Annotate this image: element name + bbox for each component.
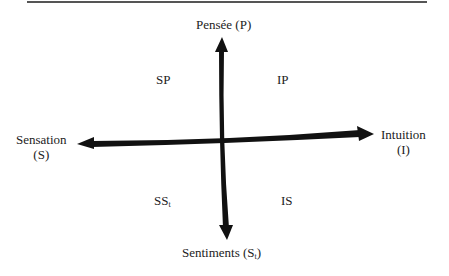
- arrow-down-head: [219, 225, 233, 240]
- axis-label-right: Intuition (I): [381, 127, 426, 157]
- quadrant-label-sst-main: SS: [154, 193, 168, 208]
- axis-label-bottom-end: ): [257, 245, 261, 260]
- axis-label-left-line1: Sensation: [16, 132, 67, 147]
- quadrant-label-sst-sub: t: [168, 200, 170, 209]
- arrow-up-head: [215, 37, 228, 52]
- axis-label-bottom: Sentiments (St): [182, 245, 261, 264]
- quadrant-label-is: IS: [281, 193, 293, 208]
- quadrant-label-sp: SP: [156, 72, 170, 87]
- arrow-right-head: [357, 126, 374, 141]
- axis-label-bottom-main: Sentiments (S: [182, 245, 255, 260]
- arrow-left-head: [77, 137, 94, 149]
- axis-label-left-line2: (S): [16, 147, 67, 162]
- quadrant-label-sst: SSt: [154, 193, 171, 212]
- axis-label-top: Pensée (P): [196, 17, 251, 32]
- horizontal-axis-arrow: [92, 130, 360, 147]
- axis-label-right-line2: (I): [381, 142, 426, 157]
- quadrant-label-ip: IP: [277, 72, 289, 87]
- axis-label-left: Sensation (S): [16, 132, 67, 162]
- axis-label-right-line1: Intuition: [381, 127, 426, 142]
